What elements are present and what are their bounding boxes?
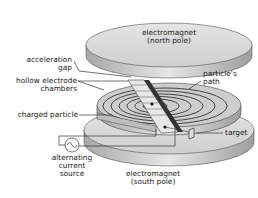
- ac-source-icon: [65, 138, 79, 152]
- target-label: target: [225, 129, 247, 137]
- charged-particle-label: charged particle: [8, 111, 78, 119]
- hollow-electrode-chambers-label: hollow electrode chambers: [5, 77, 77, 93]
- acceleration-gap-label: acceleration gap: [10, 56, 72, 72]
- particles-path-label: particle's path: [203, 70, 237, 86]
- ac-source-label: alternating current source: [42, 154, 102, 178]
- top-magnet-label: electromagnet (north pole): [130, 29, 208, 45]
- dee-electrodes: [97, 80, 241, 135]
- bottom-magnet-label: electromagnet (south pole): [118, 170, 188, 186]
